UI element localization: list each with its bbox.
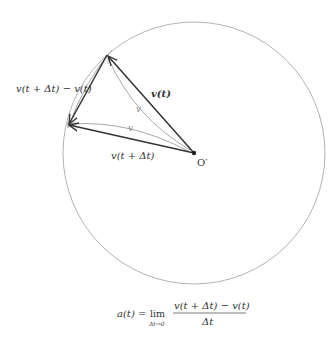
label-v-t-dt: v(t + Δt) [111,150,155,161]
label-speed-lower: v [128,123,133,133]
formula-lhs: a(t) = [117,308,146,319]
acceleration-diagram: O′ v(t) v(t + Δt) v(t + Δt) − v(t) v v a… [0,0,336,338]
formula-numerator: v(t + Δt) − v(t) [174,300,250,311]
vector-v-t [108,56,194,153]
label-v-t: v(t) [151,88,171,99]
formula-lim-sub: Δt→0 [148,320,165,327]
label-speed-upper: v [136,104,141,114]
formula-lim: lim [150,308,165,319]
origin-point [192,151,196,155]
origin-label: O′ [197,157,208,168]
acceleration-formula: a(t) = lim Δt→0 v(t + Δt) − v(t) Δt [117,300,250,327]
label-difference: v(t + Δt) − v(t) [16,83,92,94]
formula-denominator: Δt [201,316,214,327]
